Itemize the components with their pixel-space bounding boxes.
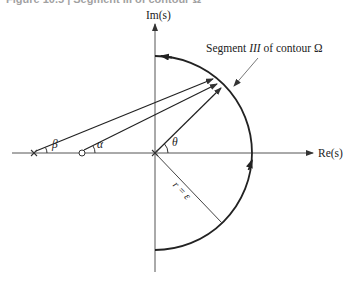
angle-beta-arc xyxy=(46,148,48,154)
real-axis-label: Re(s) xyxy=(318,148,343,160)
angle-alpha-label: α xyxy=(97,139,103,151)
angle-beta-label: β xyxy=(52,139,58,151)
angle-theta-label: θ xyxy=(172,137,178,149)
segment-label-pointer xyxy=(234,58,258,86)
vector-from-zero xyxy=(84,84,217,150)
radius-line xyxy=(155,153,222,223)
vector-from-pole xyxy=(36,79,213,151)
angle-alpha-arc xyxy=(93,146,95,153)
segment-label: Segment III of contour Ω xyxy=(206,43,323,55)
contour-diagram: Figure 10.5 | Segment III of contour Ω xyxy=(0,0,351,285)
angle-theta-arc xyxy=(165,144,169,153)
imaginary-axis-label: Im(s) xyxy=(146,10,171,22)
zero-marker xyxy=(79,150,85,156)
